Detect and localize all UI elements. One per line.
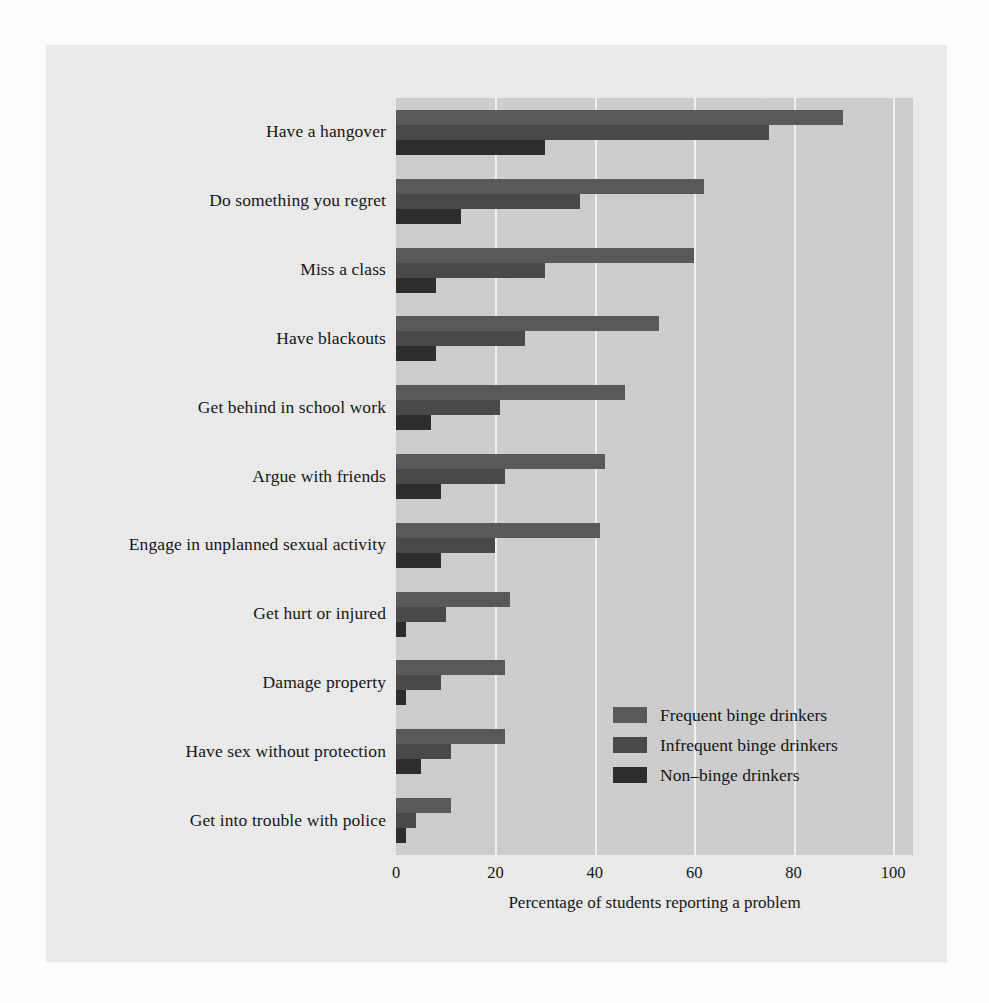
bar [396, 759, 421, 774]
category-label: Do something you regret [209, 190, 386, 211]
bar [396, 798, 451, 813]
x-axis-ticks: 020406080100 [396, 863, 913, 889]
legend-label: Infrequent binge drinkers [660, 735, 838, 756]
bar [396, 538, 495, 553]
bar [396, 744, 451, 759]
bar [396, 331, 525, 346]
bar [396, 813, 416, 828]
bar [396, 660, 505, 675]
bar [396, 316, 659, 331]
bar [396, 125, 769, 140]
gridline-40 [595, 98, 597, 855]
category-label: Argue with friends [252, 466, 386, 487]
bar [396, 675, 441, 690]
bar [396, 729, 505, 744]
bar [396, 622, 406, 637]
legend-swatch [613, 707, 647, 723]
legend-label: Non–binge drinkers [660, 765, 800, 786]
category-label: Get behind in school work [198, 397, 386, 418]
bar [396, 385, 625, 400]
category-label: Get hurt or injured [253, 603, 386, 624]
bar [396, 209, 461, 224]
category-label: Engage in unplanned sexual activity [129, 534, 386, 555]
bar [396, 248, 694, 263]
category-label: Damage property [263, 672, 386, 693]
category-label: Have blackouts [276, 328, 386, 349]
category-label: Get into trouble with police [190, 810, 386, 831]
bar-chart-figure: Have a hangoverDo something you regretMi… [46, 45, 947, 962]
chart-legend: Frequent binge drinkersInfrequent binge … [613, 700, 903, 790]
bar [396, 415, 431, 430]
bar [396, 278, 436, 293]
legend-item: Non–binge drinkers [613, 760, 903, 790]
bar [396, 263, 545, 278]
category-label: Miss a class [300, 259, 386, 280]
bar [396, 140, 545, 155]
category-label: Have sex without protection [186, 741, 387, 762]
legend-item: Infrequent binge drinkers [613, 730, 903, 760]
bar [396, 469, 505, 484]
x-tick-label: 80 [785, 863, 802, 883]
bar [396, 194, 580, 209]
bar [396, 454, 605, 469]
bar [396, 179, 704, 194]
x-tick-label: 20 [487, 863, 504, 883]
x-tick-label: 0 [392, 863, 400, 883]
bar [396, 828, 406, 843]
bar [396, 690, 406, 705]
x-tick-label: 40 [587, 863, 604, 883]
bar [396, 110, 843, 125]
bar [396, 607, 446, 622]
scanned-page: Have a hangoverDo something you regretMi… [0, 0, 989, 1003]
x-tick-label: 100 [881, 863, 906, 883]
legend-label: Frequent binge drinkers [660, 705, 827, 726]
bar [396, 346, 436, 361]
legend-swatch [613, 767, 647, 783]
x-tick-label: 60 [686, 863, 703, 883]
bar [396, 592, 510, 607]
bar [396, 553, 441, 568]
legend-swatch [613, 737, 647, 753]
legend-item: Frequent binge drinkers [613, 700, 903, 730]
x-axis-title: Percentage of students reporting a probl… [396, 893, 913, 913]
bar [396, 484, 441, 499]
category-label: Have a hangover [266, 121, 386, 142]
bar [396, 523, 600, 538]
bar [396, 400, 500, 415]
